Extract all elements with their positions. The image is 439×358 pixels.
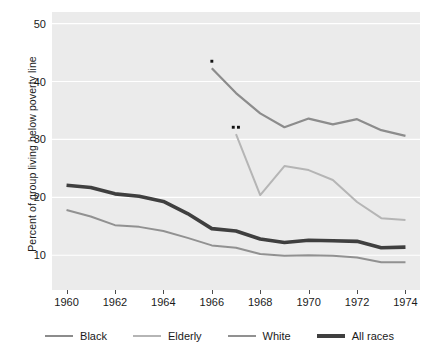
legend-swatch-icon <box>317 334 345 338</box>
x-tick-mark-1966 <box>212 290 213 294</box>
legend-item-white[interactable]: White <box>228 330 291 342</box>
x-tick-mark-1972 <box>357 290 358 294</box>
legend-item-black[interactable]: Black <box>45 330 107 342</box>
chart-root: Percent of group living below poverty li… <box>0 0 439 358</box>
legend-label: All races <box>352 330 394 342</box>
x-tick-label-1970: 1970 <box>296 296 320 308</box>
y-tick-label-10: 10 <box>20 249 46 261</box>
y-tick-label-30: 30 <box>20 133 46 145</box>
legend-label: Elderly <box>168 330 202 342</box>
legend-swatch-icon <box>228 335 256 337</box>
series-line-white <box>67 210 406 262</box>
x-tick-label-1962: 1962 <box>103 296 127 308</box>
plot-area <box>52 12 420 290</box>
legend-label: Black <box>80 330 107 342</box>
legend-swatch-icon <box>45 335 73 337</box>
x-tick-mark-1962 <box>115 290 116 294</box>
x-tick-label-1966: 1966 <box>200 296 224 308</box>
series-line-black <box>212 68 406 136</box>
x-tick-label-1968: 1968 <box>248 296 272 308</box>
x-tick-label-1964: 1964 <box>151 296 175 308</box>
legend-swatch-icon <box>133 335 161 337</box>
x-tick-mark-1970 <box>309 290 310 294</box>
y-tick-label-50: 50 <box>20 18 46 30</box>
chart-legend: BlackElderlyWhiteAll races <box>0 330 439 342</box>
y-tick-label-40: 40 <box>20 76 46 88</box>
x-tick-mark-1974 <box>405 290 406 294</box>
x-tick-label-1972: 1972 <box>345 296 369 308</box>
x-tick-label-1960: 1960 <box>54 296 78 308</box>
x-tick-mark-1968 <box>260 290 261 294</box>
series-line-all-races <box>67 185 406 248</box>
plot-svg <box>52 12 420 290</box>
double-asterisk-annotation <box>232 126 235 129</box>
legend-item-elderly[interactable]: Elderly <box>133 330 202 342</box>
x-tick-mark-1960 <box>67 290 68 294</box>
double-asterisk-annotation <box>237 126 240 129</box>
x-tick-mark-1964 <box>163 290 164 294</box>
x-tick-label-1974: 1974 <box>393 296 417 308</box>
series-line-elderly <box>236 134 405 220</box>
single-asterisk-annotation <box>210 60 213 63</box>
legend-label: White <box>263 330 291 342</box>
y-tick-label-20: 20 <box>20 191 46 203</box>
legend-item-all-races[interactable]: All races <box>317 330 394 342</box>
